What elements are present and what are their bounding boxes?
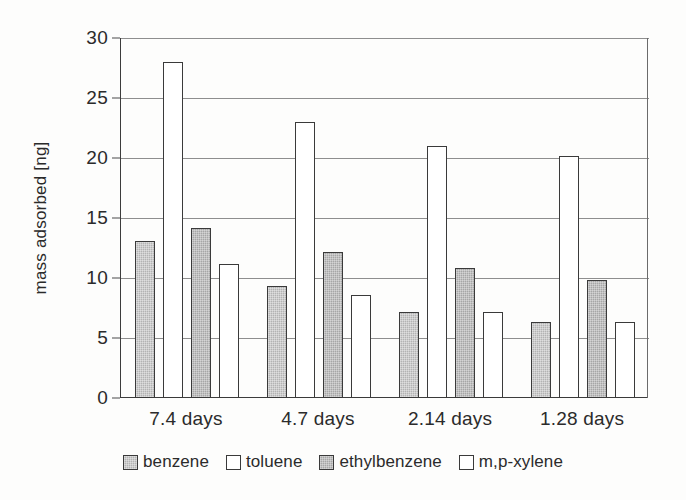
y-axis-tick-mark [112,398,120,399]
y-axis-tick-mark [112,38,120,39]
y-axis-tick-label: 5 [68,327,108,349]
bar [323,252,344,398]
bar [163,62,184,398]
bar [399,312,420,398]
y-axis-tick-mark [112,218,120,219]
legend-swatch [226,455,241,470]
bar [427,146,448,398]
bar [483,312,504,398]
plot-area [120,38,648,398]
y-axis-tick-mark [112,278,120,279]
bar [455,268,476,398]
legend-swatch [319,455,334,470]
bar [351,295,372,398]
legend-item[interactable]: m,p-xylene [459,452,563,472]
x-axis-tick-labels: 7.4 days4.7 days2.14 days1.28 days [120,408,648,438]
legend-label: ethylbenzene [339,452,441,472]
chart-legend: benzenetolueneethylbenzenem,p-xylene [0,452,686,472]
x-axis-tick-label: 4.7 days [281,408,354,430]
y-axis-tick-label: 0 [68,387,108,409]
y-axis-tick-mark [112,98,120,99]
legend-swatch [123,455,138,470]
y-axis-tick-label: 10 [68,267,108,289]
y-axis-tick-marks [112,38,120,398]
y-axis-tick-label: 20 [68,147,108,169]
bar [135,241,156,398]
bar [267,286,288,398]
legend-item[interactable]: ethylbenzene [319,452,441,472]
bar [191,228,212,398]
bar [219,264,240,398]
bar [531,322,552,398]
y-axis-tick-label: 25 [68,87,108,109]
y-axis-tick-mark [112,158,120,159]
y-axis-tick-mark [112,338,120,339]
y-axis-tick-label: 15 [68,207,108,229]
x-axis-tick-label: 2.14 days [408,408,492,430]
x-axis-tick-label: 1.28 days [540,408,624,430]
bar [615,322,636,398]
chart-figure: mass adsorbed [ng] 051015202530 7.4 days… [0,0,686,500]
bar [587,280,608,398]
legend-item[interactable]: toluene [226,452,302,472]
legend-item[interactable]: benzene [123,452,209,472]
bars-layer [121,38,649,398]
bar [559,156,580,398]
legend-label: benzene [143,452,209,472]
x-axis-tick-label: 7.4 days [149,408,222,430]
legend-label: toluene [246,452,302,472]
y-axis-tick-labels: 051015202530 [60,38,108,398]
bar [295,122,316,398]
legend-label: m,p-xylene [479,452,563,472]
legend-swatch [459,455,474,470]
y-axis-title: mass adsorbed [ng] [22,38,60,398]
y-axis-tick-label: 30 [68,27,108,49]
